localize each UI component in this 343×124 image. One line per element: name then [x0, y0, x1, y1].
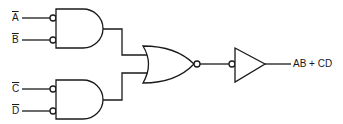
output-label: AB + CD — [293, 59, 332, 69]
input-label-a: A — [12, 13, 19, 23]
input-label-b: B — [12, 35, 19, 45]
wire-and1-to-nor — [103, 29, 147, 55]
and-gate-top — [56, 9, 103, 48]
inversion-bubble-b — [50, 37, 56, 43]
wire-and2-to-nor — [103, 73, 147, 100]
and-gate-bottom — [56, 80, 103, 119]
logic-diagram — [0, 0, 343, 124]
inversion-bubble-a — [50, 15, 56, 21]
input-label-d: D — [12, 106, 19, 116]
inversion-bubble-c — [50, 86, 56, 92]
buffer-input-bubble — [229, 61, 235, 67]
nor-output-bubble — [194, 61, 200, 67]
inversion-bubble-d — [50, 108, 56, 114]
buffer-gate — [235, 48, 265, 82]
nor-gate — [143, 46, 194, 83]
input-label-c: C — [12, 84, 19, 94]
